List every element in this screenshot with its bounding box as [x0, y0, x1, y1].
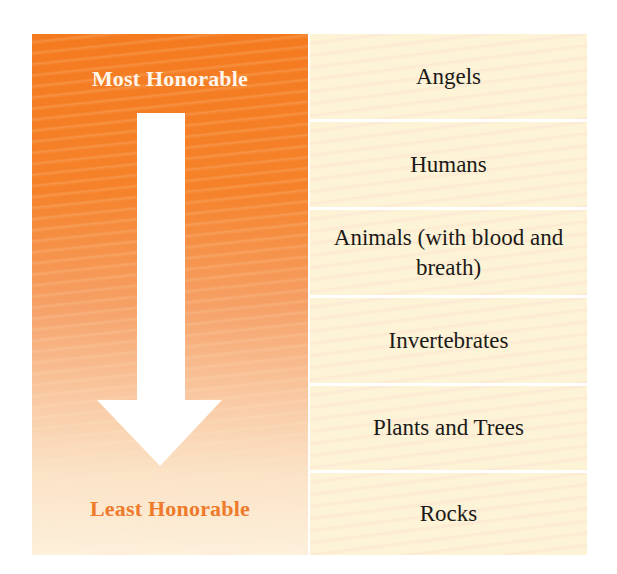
rank-label: Rocks: [412, 499, 486, 529]
rank-row-humans: Humans: [310, 122, 587, 207]
rank-row-angels: Angels: [310, 34, 587, 119]
down-arrow-icon: [32, 34, 308, 555]
rank-label: Plants and Trees: [365, 413, 532, 443]
ranking-column: Angels Humans Animals (with blood and br…: [310, 34, 587, 555]
rank-label: Humans: [402, 150, 495, 180]
rank-label: Angels: [408, 62, 489, 92]
honor-scale-panel: Most Honorable Least Honorable: [32, 34, 308, 555]
rank-label: Animals (with blood and breath): [326, 223, 572, 283]
rank-label: Invertebrates: [380, 326, 516, 356]
rank-row-animals: Animals (with blood and breath): [310, 210, 587, 295]
rank-row-rocks: Rocks: [310, 473, 587, 555]
rank-row-invertebrates: Invertebrates: [310, 298, 587, 383]
rank-row-plants: Plants and Trees: [310, 386, 587, 470]
least-honorable-label: Least Honorable: [32, 496, 308, 522]
